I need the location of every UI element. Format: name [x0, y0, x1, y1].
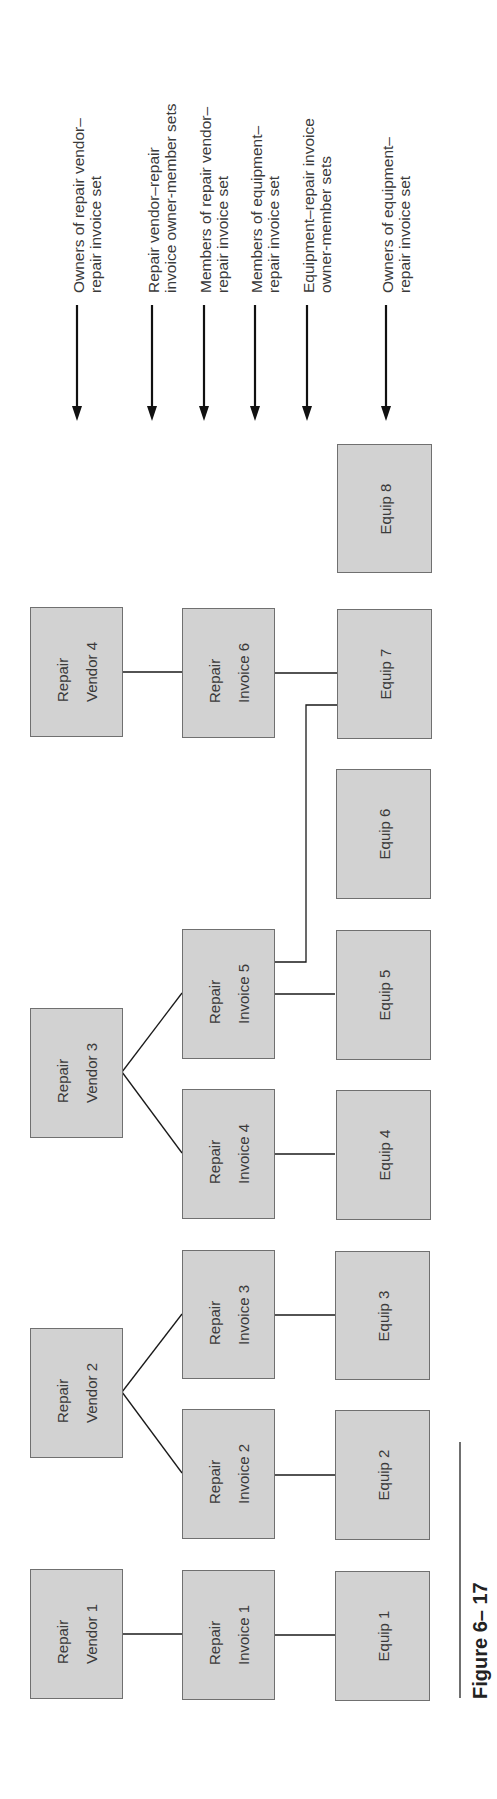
- node-label: Equip 7: [370, 649, 399, 700]
- node-repair-invoice-5: Repair Invoice 5: [182, 929, 275, 1059]
- node-label: Repair Invoice 1: [200, 1605, 258, 1665]
- label-owners-vendor-invoice-set: Owners of repair vendor– repair invoice …: [70, 118, 104, 293]
- node-label: Repair Invoice 2: [200, 1444, 258, 1504]
- arrow-head-icon: [381, 406, 391, 421]
- node-equip-7: Equip 7: [337, 609, 432, 739]
- label-members-vendor-invoice-set: Members of repair vendor– repair invoice…: [197, 107, 231, 293]
- diagram-canvas: Owners of repair vendor– repair invoice …: [0, 0, 497, 1799]
- label-members-equipment-invoice-set: Members of equipment– repair invoice set: [248, 126, 282, 293]
- node-label: Repair Invoice 5: [200, 964, 258, 1024]
- label-vendor-invoice-owner-member-sets: Repair vendor–repair invoice owner-membe…: [145, 103, 179, 293]
- label-owners-equipment-invoice-set: Owners of equipment– repair invoice set: [379, 137, 413, 293]
- node-repair-invoice-3: Repair Invoice 3: [182, 1250, 275, 1379]
- node-equip-4: Equip 4: [336, 1090, 431, 1220]
- edge-vendor2-invoice2: [122, 1392, 182, 1473]
- node-label: Equip 2: [368, 1450, 397, 1501]
- node-equip-6: Equip 6: [336, 769, 431, 899]
- node-label: Equip 5: [369, 970, 398, 1021]
- node-label: Equip 8: [370, 483, 399, 534]
- figure-caption: Figure 6– 17: [469, 1582, 492, 1699]
- edge-vendor3-invoice5: [122, 993, 182, 1072]
- node-repair-invoice-6: Repair Invoice 6: [182, 608, 275, 738]
- node-repair-vendor-4: Repair Vendor 4: [30, 607, 123, 737]
- node-label: Repair Vendor 3: [48, 1043, 106, 1103]
- edge-vendor2-invoice3: [122, 1314, 182, 1392]
- arrow-head-icon: [250, 406, 260, 421]
- node-label: Equip 1: [368, 1611, 397, 1662]
- node-equip-8: Equip 8: [337, 444, 432, 573]
- node-repair-invoice-1: Repair Invoice 1: [182, 1570, 275, 1700]
- arrow-head-icon: [72, 406, 82, 421]
- edge-vendor3-invoice4: [122, 1072, 182, 1153]
- node-label: Equip 4: [369, 1130, 398, 1181]
- arrow-head-icon: [147, 406, 157, 421]
- node-repair-vendor-3: Repair Vendor 3: [30, 1008, 123, 1138]
- label-equipment-invoice-owner-member-sets: Equipment–repair invoice owner-member se…: [300, 118, 334, 293]
- node-repair-vendor-1: Repair Vendor 1: [30, 1569, 123, 1699]
- node-label: Repair Invoice 6: [200, 643, 258, 703]
- node-label: Repair Vendor 2: [48, 1363, 106, 1423]
- node-repair-vendor-2: Repair Vendor 2: [30, 1328, 123, 1458]
- node-equip-1: Equip 1: [335, 1571, 430, 1701]
- node-label: Repair Vendor 1: [48, 1604, 106, 1664]
- node-label: Equip 3: [368, 1290, 397, 1341]
- node-label: Repair Invoice 3: [200, 1284, 258, 1344]
- arrow-head-icon: [199, 406, 209, 421]
- node-equip-2: Equip 2: [335, 1410, 430, 1540]
- node-repair-invoice-2: Repair Invoice 2: [182, 1409, 275, 1539]
- node-label: Repair Vendor 4: [48, 642, 106, 702]
- node-equip-5: Equip 5: [336, 930, 431, 1060]
- level-arrows: [72, 305, 391, 421]
- edge-invoice5-equip7: [274, 705, 337, 962]
- node-repair-invoice-4: Repair Invoice 4: [182, 1089, 275, 1219]
- arrow-head-icon: [302, 406, 312, 421]
- node-label: Equip 6: [369, 809, 398, 860]
- node-equip-3: Equip 3: [335, 1251, 430, 1380]
- node-label: Repair Invoice 4: [200, 1124, 258, 1184]
